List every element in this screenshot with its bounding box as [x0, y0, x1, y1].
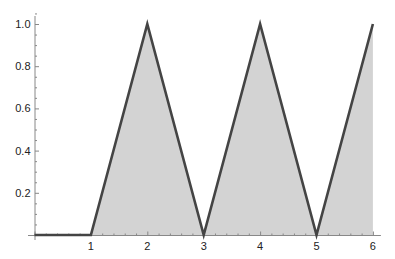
y-tick-label: 0.2 [15, 187, 30, 199]
x-tick-label: 3 [201, 240, 207, 252]
x-tick-label: 4 [257, 240, 263, 252]
x-tick-label: 5 [313, 240, 319, 252]
x-tick-label: 1 [88, 240, 94, 252]
y-tick-label: 0.8 [15, 60, 30, 72]
y-tick-label: 0.4 [15, 145, 30, 157]
series-line [35, 24, 373, 235]
y-tick-label: 1.0 [15, 18, 30, 30]
y-tick-label: 0.6 [15, 102, 30, 114]
x-tick-label: 2 [144, 240, 150, 252]
area-fill-path [35, 24, 373, 235]
chart: 1234560.20.40.60.81.0 [0, 0, 395, 259]
area-fill [35, 24, 373, 235]
x-tick-label: 6 [370, 240, 376, 252]
data-line [35, 24, 373, 235]
